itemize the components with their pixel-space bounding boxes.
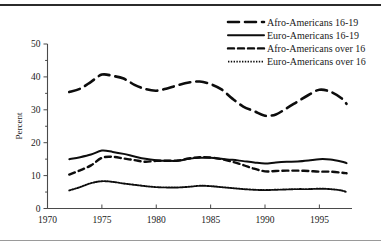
y-axis-title: Percent bbox=[14, 112, 24, 139]
series-line-3 bbox=[69, 181, 346, 192]
figure-container: Afro-Americans 16-19Euro-Americans 16-19… bbox=[0, 0, 381, 250]
data-series-group bbox=[69, 74, 346, 192]
y-tick-label: 10 bbox=[31, 171, 41, 181]
series-line-0 bbox=[69, 74, 346, 116]
chart-legend: Afro-Americans 16-19Euro-Americans 16-19… bbox=[228, 17, 366, 68]
legend-label-2: Afro-Americans over 16 bbox=[267, 43, 365, 54]
x-tick-label: 1975 bbox=[92, 215, 111, 225]
legend-label-3: Euro-Americans over 16 bbox=[267, 56, 366, 67]
x-tick-label: 1970 bbox=[38, 215, 57, 225]
y-tick-label: 20 bbox=[31, 138, 41, 148]
x-tick-label: 1980 bbox=[147, 215, 166, 225]
x-tick-label: 1985 bbox=[201, 215, 220, 225]
x-tick-label: 1995 bbox=[310, 215, 329, 225]
legend-label-1: Euro-Americans 16-19 bbox=[267, 30, 359, 41]
y-tick-label: 30 bbox=[31, 105, 41, 115]
series-line-2 bbox=[69, 157, 346, 175]
line-chart: Afro-Americans 16-19Euro-Americans 16-19… bbox=[0, 0, 381, 250]
y-tick-label: 50 bbox=[31, 39, 41, 49]
y-tick-label: 0 bbox=[36, 204, 41, 214]
y-axis-ticks: 01020304050 bbox=[31, 39, 48, 214]
x-axis-ticks: 197019751980198519901995 bbox=[38, 205, 329, 225]
y-tick-label: 40 bbox=[31, 72, 41, 82]
x-tick-label: 1990 bbox=[256, 215, 275, 225]
legend-label-0: Afro-Americans 16-19 bbox=[267, 17, 358, 28]
